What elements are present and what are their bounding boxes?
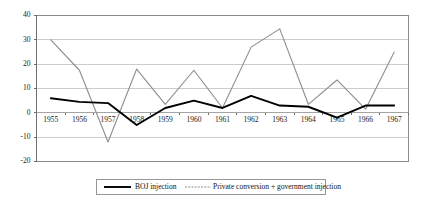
chart-background xyxy=(0,0,422,206)
y-tick-label: 10 xyxy=(23,83,31,92)
y-tick-label: 0 xyxy=(27,108,31,117)
chart-canvas: 403020100-10-20 195519561957195819591960… xyxy=(0,0,422,206)
x-tick-label: 1966 xyxy=(358,115,373,124)
legend-label-boj-injection: BOJ injection xyxy=(135,182,177,191)
y-tick-label: -10 xyxy=(21,132,31,141)
line-chart: 403020100-10-20 195519561957195819591960… xyxy=(0,0,422,206)
x-tick-label: 1957 xyxy=(101,115,116,124)
x-tick-label: 1955 xyxy=(43,115,58,124)
x-tick-label: 1963 xyxy=(272,115,287,124)
y-tick-label: -20 xyxy=(21,156,31,165)
x-tick-label: 1962 xyxy=(244,115,259,124)
legend-label-private-conversion-government-injection: Private conversion + government injectio… xyxy=(213,182,341,191)
y-tick-label: 20 xyxy=(23,59,31,68)
y-tick-label: 30 xyxy=(23,35,31,44)
x-tick-label: 1967 xyxy=(387,115,402,124)
x-tick-label: 1961 xyxy=(215,115,230,124)
x-tick-label: 1960 xyxy=(186,115,201,124)
x-tick-label: 1964 xyxy=(301,115,316,124)
x-tick-label: 1959 xyxy=(158,115,173,124)
x-tick-label: 1956 xyxy=(72,115,87,124)
y-tick-label: 40 xyxy=(23,10,31,19)
legend: BOJ injection Private conversion + gover… xyxy=(97,180,342,195)
